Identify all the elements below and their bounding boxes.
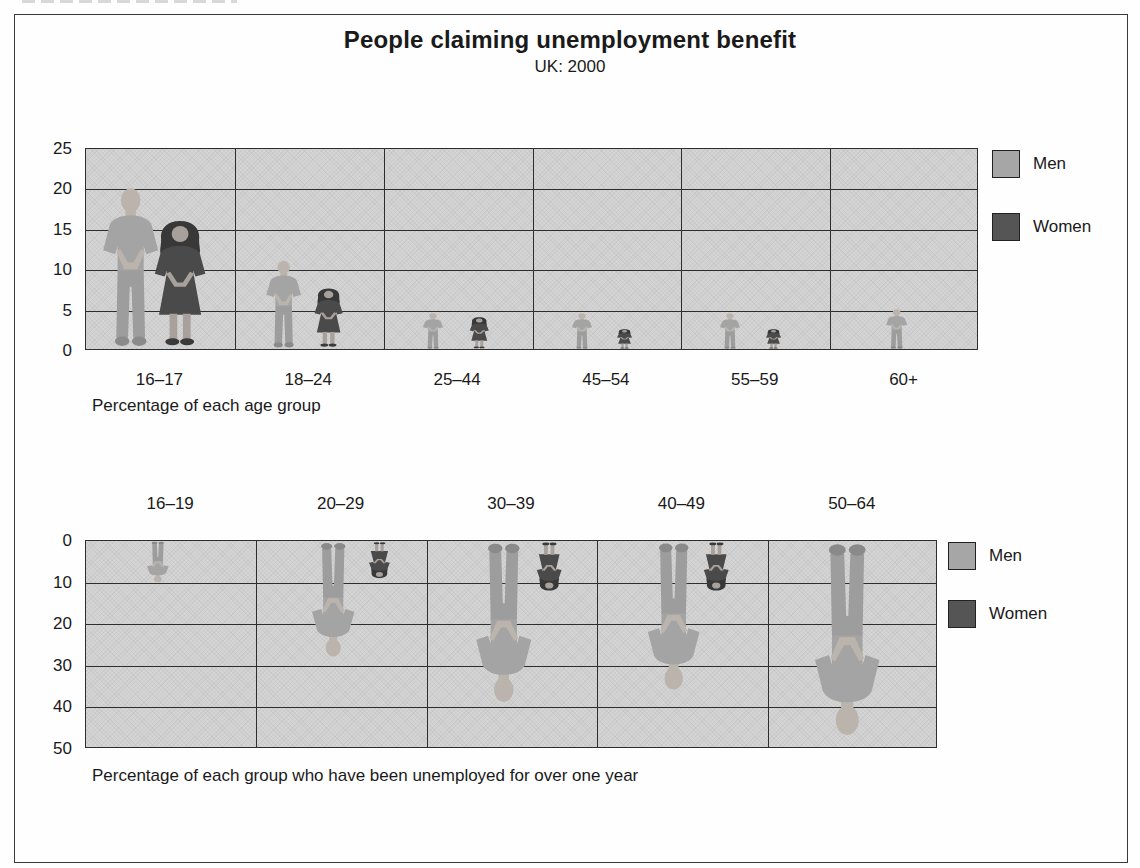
legend-item-women: Women bbox=[948, 600, 1047, 628]
legend-item-women: Women bbox=[992, 213, 1091, 241]
gridline-15 bbox=[86, 230, 977, 231]
figure-man-60+ bbox=[884, 309, 909, 349]
clipped-page-header-text bbox=[22, 0, 237, 3]
figure-man-20-29 bbox=[308, 541, 358, 657]
figure-man-18-24 bbox=[263, 260, 304, 349]
column-divider-5 bbox=[830, 149, 831, 349]
men-legend-label: Men bbox=[989, 546, 1022, 566]
age-group-label-25-44: 25–44 bbox=[397, 370, 517, 390]
age-group-label-18-24: 18–24 bbox=[248, 370, 368, 390]
bottom-chart-caption: Percentage of each group who have been u… bbox=[92, 766, 638, 786]
figure-woman-55-59 bbox=[763, 329, 784, 349]
age-group-label-50-64: 50–64 bbox=[792, 494, 912, 514]
top-chart-plot-area bbox=[85, 148, 978, 350]
women-swatch bbox=[948, 600, 976, 628]
age-group-label-20-29: 20–29 bbox=[281, 494, 401, 514]
figure-woman-45-54 bbox=[614, 329, 635, 349]
figure-man-30-39 bbox=[471, 541, 537, 703]
column-divider-3 bbox=[533, 149, 534, 349]
age-group-label-40-49: 40–49 bbox=[621, 494, 741, 514]
y-axis-tick-20: 20 bbox=[12, 615, 72, 632]
y-axis-tick-5: 5 bbox=[12, 302, 72, 319]
y-axis-tick-15: 15 bbox=[12, 221, 72, 238]
figure-man-50-64 bbox=[809, 541, 886, 737]
column-divider-1 bbox=[235, 149, 236, 349]
gridline-5 bbox=[86, 311, 977, 312]
column-divider-2 bbox=[384, 149, 385, 349]
column-divider-4 bbox=[681, 149, 682, 349]
figure-woman-30-39 bbox=[532, 541, 566, 591]
bottom-chart-plot-area bbox=[85, 540, 937, 748]
women-swatch bbox=[992, 213, 1020, 241]
figure-man-45-54 bbox=[570, 313, 594, 349]
legend-item-men: Men bbox=[992, 150, 1066, 178]
y-axis-tick-0: 0 bbox=[12, 342, 72, 359]
top-chart-legend: Men Women bbox=[992, 150, 1112, 250]
figure-man-16-19 bbox=[145, 541, 171, 583]
y-axis-tick-25: 25 bbox=[12, 140, 72, 157]
women-legend-label: Women bbox=[1033, 217, 1091, 237]
figure-man-40-49 bbox=[643, 541, 704, 691]
gridline-20 bbox=[86, 189, 977, 190]
age-group-label-16-17: 16–17 bbox=[99, 370, 219, 390]
age-group-label-30-39: 30–39 bbox=[451, 494, 571, 514]
y-axis-tick-50: 50 bbox=[12, 740, 72, 757]
figure-man-25-44 bbox=[421, 313, 445, 349]
column-divider-1 bbox=[256, 541, 257, 747]
age-group-label-60+: 60+ bbox=[844, 370, 964, 390]
age-group-label-55-59: 55–59 bbox=[695, 370, 815, 390]
figure-woman-18-24 bbox=[309, 288, 348, 349]
age-group-label-16-19: 16–19 bbox=[110, 494, 230, 514]
y-axis-tick-40: 40 bbox=[12, 698, 72, 715]
age-group-label-45-54: 45–54 bbox=[546, 370, 666, 390]
bottom-chart-legend: Men Women bbox=[948, 542, 1078, 652]
men-legend-label: Men bbox=[1033, 154, 1066, 174]
women-legend-label: Women bbox=[989, 604, 1047, 624]
column-divider-3 bbox=[597, 541, 598, 747]
figure-woman-20-29 bbox=[365, 541, 394, 578]
y-axis-tick-10: 10 bbox=[12, 261, 72, 278]
column-divider-4 bbox=[768, 541, 769, 747]
column-divider-2 bbox=[427, 541, 428, 747]
figure-man-55-59 bbox=[718, 313, 742, 349]
chart-subtitle: UK: 2000 bbox=[0, 57, 1140, 77]
scanned-book-page: People claiming unemployment benefit UK:… bbox=[0, 0, 1140, 868]
men-swatch bbox=[992, 150, 1020, 178]
gridline-10 bbox=[86, 270, 977, 271]
y-axis-tick-30: 30 bbox=[12, 657, 72, 674]
chart-title: People claiming unemployment benefit bbox=[0, 26, 1140, 54]
y-axis-tick-10: 10 bbox=[12, 574, 72, 591]
figure-woman-25-44 bbox=[466, 317, 493, 349]
y-axis-tick-20: 20 bbox=[12, 180, 72, 197]
figure-woman-40-49 bbox=[699, 541, 733, 591]
men-swatch bbox=[948, 542, 976, 570]
top-chart-caption: Percentage of each age group bbox=[92, 396, 321, 416]
figure-woman-16-17 bbox=[145, 220, 215, 349]
legend-item-men: Men bbox=[948, 542, 1022, 570]
y-axis-tick-0: 0 bbox=[12, 532, 72, 549]
